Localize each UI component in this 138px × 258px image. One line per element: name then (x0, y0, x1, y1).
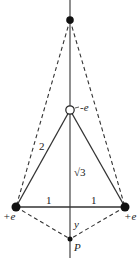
pos-charge-right-label: +e (124, 210, 136, 222)
distance-y-label: y (73, 218, 79, 230)
dashed-line-top-right (70, 20, 125, 207)
side-length-label: 2 (39, 140, 45, 152)
point-p-dot (68, 237, 73, 242)
top-charge-dot (66, 16, 74, 24)
half-base-left-label: 1 (46, 194, 52, 206)
dashed-line-top-left (16, 20, 70, 207)
height-label: √3 (74, 166, 86, 178)
charge-diagram: -e 2 √3 1 1 +e +e y P (0, 0, 138, 258)
dashed-line-left-p (16, 207, 70, 239)
point-p-label: P (73, 241, 81, 253)
neg-charge-leader (75, 107, 79, 108)
triangle-side-left (16, 110, 70, 207)
half-base-right-label: 1 (91, 194, 97, 206)
triangle-side-right (70, 110, 125, 207)
neg-charge-label: -e (80, 101, 89, 113)
pos-charge-left-label: +e (3, 210, 15, 222)
negative-charge-circle (66, 106, 74, 114)
